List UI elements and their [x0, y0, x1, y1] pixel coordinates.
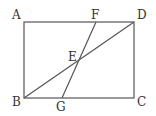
label-d: D: [137, 8, 147, 22]
label-b: B: [12, 95, 21, 109]
label-f: F: [91, 8, 99, 22]
geometry-diagram: A B C D E F G: [0, 0, 156, 116]
label-g: G: [56, 100, 66, 114]
label-c: C: [137, 95, 146, 109]
label-e: E: [68, 50, 77, 64]
label-a: A: [11, 8, 21, 22]
